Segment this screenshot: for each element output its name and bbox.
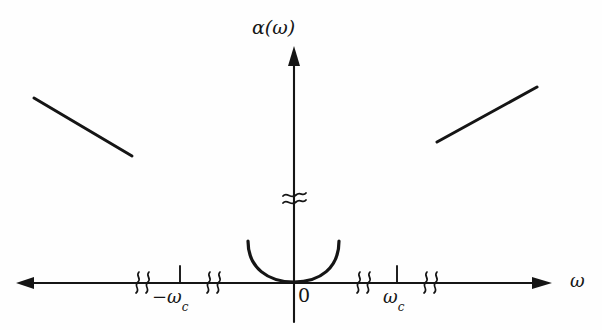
left-asymptote-segment xyxy=(34,98,132,156)
tick-label-positive-omega-c-subscript: c xyxy=(398,300,405,314)
right-asymptote-segment xyxy=(437,87,537,142)
figure-canvas: α(ω) ω 0 −ωc ωc xyxy=(0,0,602,330)
tick-label-positive-omega-c: ωc xyxy=(383,288,404,310)
y-axis-arrowhead xyxy=(288,46,300,66)
x-axis-label: ω xyxy=(570,272,585,290)
origin-label: 0 xyxy=(298,286,310,305)
x-axis-right-arrowhead xyxy=(532,277,552,289)
tick-label-negative-omega-c-main: −ω xyxy=(152,286,182,307)
tick-label-positive-omega-c-main: ω xyxy=(383,286,398,307)
y-axis-label: α(ω) xyxy=(252,18,295,37)
x-axis-left-arrowhead xyxy=(16,277,34,289)
tick-label-negative-omega-c-subscript: c xyxy=(182,300,189,314)
tick-label-negative-omega-c: −ωc xyxy=(152,288,189,310)
plot-drawing xyxy=(0,0,602,330)
